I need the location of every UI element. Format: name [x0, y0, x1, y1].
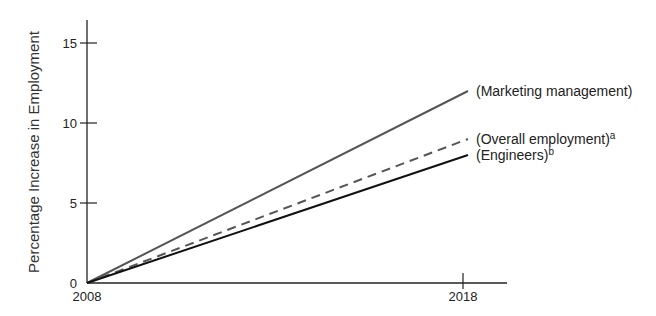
series-label: (Marketing management)	[476, 83, 632, 99]
series-lines	[87, 91, 468, 283]
series-label: (Overall employment)a	[476, 130, 616, 147]
y-axis-label: Percentage Increase in Employment	[25, 30, 42, 273]
axes	[87, 20, 507, 283]
y-tick-label: 10	[63, 116, 77, 131]
series-line	[87, 91, 468, 283]
y-ticks: 051015	[63, 36, 97, 291]
series-label: (Engineers)b	[476, 146, 554, 163]
series-line	[87, 155, 468, 283]
series-labels: (Marketing management)(Overall employmen…	[476, 83, 632, 163]
x-ticks: 20082018	[73, 273, 478, 304]
series-line	[87, 139, 468, 283]
x-tick-label: 2018	[449, 289, 478, 304]
line-chart: 051015 20082018 Percentage Increase in E…	[0, 0, 656, 316]
x-tick-label: 2008	[73, 289, 102, 304]
y-tick-label: 15	[63, 36, 77, 51]
y-tick-label: 5	[70, 196, 77, 211]
